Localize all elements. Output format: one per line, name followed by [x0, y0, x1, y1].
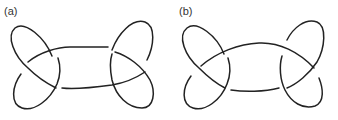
strand — [112, 21, 153, 60]
knot-drawing-a — [0, 0, 169, 120]
strand — [62, 72, 145, 88]
strand — [184, 58, 230, 109]
knot-diagram-b: (b) — [169, 0, 338, 120]
knot-diagram-a: (a) — [0, 0, 169, 120]
strand — [14, 58, 60, 109]
strand — [28, 47, 108, 62]
strand — [231, 88, 279, 91]
strand — [201, 43, 314, 68]
knot-drawing-b — [169, 0, 338, 120]
